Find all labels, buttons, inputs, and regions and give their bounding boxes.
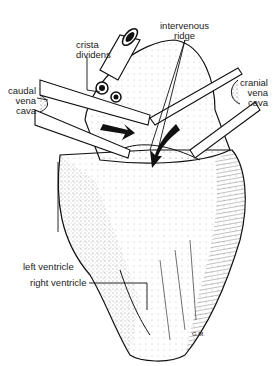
label-intervenous-ridge: intervenous ridge [160,21,209,41]
heart-illustration [0,0,274,366]
label-caudal-vena-cava: caudal vena cava [4,86,36,116]
label-cranial-vena-cava: cranial vena cava [232,78,268,108]
label-left-ventricle: left ventricle [23,262,74,272]
label-right-ventricle: right ventricle [30,278,87,288]
artist-signature: G.M. [192,329,205,339]
ventricles [58,150,245,361]
label-crista-dividens: crista dividens [76,40,111,60]
